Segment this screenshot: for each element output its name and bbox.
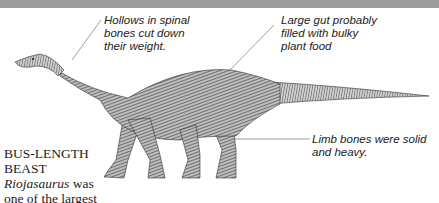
leader-line-spine bbox=[72, 20, 101, 60]
annotation-line: Hollows in spinal bbox=[104, 14, 190, 27]
annotation-line: filled with bulky bbox=[281, 27, 377, 40]
annotation-line: and heavy. bbox=[312, 146, 426, 159]
caption-text: was bbox=[69, 176, 93, 191]
annotation-gut: Large gut probably filled with bulky pla… bbox=[281, 14, 377, 53]
annotation-line: Limb bones were solid bbox=[312, 133, 426, 146]
leader-line-gut bbox=[227, 25, 274, 73]
annotation-limbs: Limb bones were solid and heavy. bbox=[312, 133, 426, 159]
species-name: Riojasaurus bbox=[4, 176, 69, 191]
annotation-line: bones cut down bbox=[104, 27, 190, 40]
annotation-line: their weight. bbox=[104, 40, 190, 53]
caption-continuation: one of the largest bbox=[4, 191, 97, 203]
caption: BUS-LENGTH BEAST Riojasaurus was one of … bbox=[4, 146, 114, 203]
annotation-line: Large gut probably bbox=[281, 14, 377, 27]
annotation-line: plant food bbox=[281, 40, 377, 53]
caption-heading: BUS-LENGTH BEAST bbox=[4, 146, 114, 176]
annotation-spine: Hollows in spinal bones cut down their w… bbox=[104, 14, 190, 53]
